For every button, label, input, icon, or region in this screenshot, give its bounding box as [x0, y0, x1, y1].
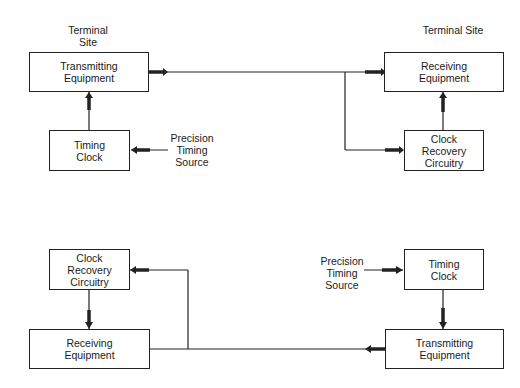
timing-clock-box-bottom: Timing Clock — [404, 249, 484, 290]
precision-timing-source-label-bottom: Precision Timing Source — [318, 255, 366, 291]
timing-clock-box: Timing Clock — [49, 130, 130, 171]
clock-recovery-circuitry-box-bottom: Clock Recovery Circuitry — [49, 249, 130, 290]
box-text: Equipment — [60, 72, 117, 84]
box-text: Timing — [428, 258, 459, 270]
box-text: Clock — [74, 151, 105, 163]
box-text: Transmitting — [60, 60, 117, 72]
terminal-site-label-left: Terminal Site — [58, 24, 118, 48]
box-text: Clock — [428, 270, 459, 282]
precision-timing-source-label: Precision Timing Source — [168, 132, 216, 168]
terminal-site-label-right: Terminal Site — [413, 24, 493, 36]
box-text: Clock — [67, 252, 111, 264]
box-text: Receiving — [419, 60, 469, 72]
transmitting-equipment-box-bottom: Transmitting Equipment — [385, 329, 504, 369]
box-text: Receiving — [64, 337, 114, 349]
transmitting-equipment-box: Transmitting Equipment — [29, 52, 149, 92]
box-text: Transmitting — [416, 337, 473, 349]
box-text: Recovery — [67, 264, 111, 276]
box-text: Recovery — [422, 145, 466, 157]
clock-recovery-circuitry-box: Clock Recovery Circuitry — [404, 130, 484, 171]
box-text: Timing — [74, 139, 105, 151]
receiving-equipment-box-bottom: Receiving Equipment — [29, 329, 150, 369]
box-text: Equipment — [419, 72, 469, 84]
receiving-equipment-box: Receiving Equipment — [384, 52, 504, 92]
box-text: Equipment — [64, 349, 114, 361]
box-text: Equipment — [416, 349, 473, 361]
box-text: Circuitry — [422, 157, 466, 169]
box-text: Clock — [422, 133, 466, 145]
box-text: Circuitry — [67, 276, 111, 288]
